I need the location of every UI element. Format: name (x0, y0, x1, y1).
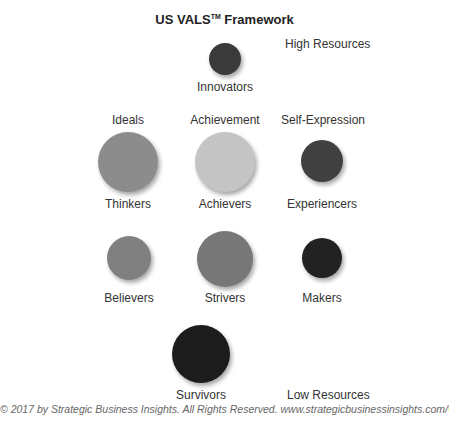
thinkers-label: Thinkers (105, 197, 151, 211)
experiencers-circle (301, 140, 343, 182)
strivers-circle (197, 231, 253, 287)
copyright-footer: © 2017 by Strategic Business Insights. A… (0, 403, 449, 415)
diagram-title: US VALSTM Framework (0, 12, 449, 27)
title-suffix: Framework (221, 12, 294, 27)
low-resources-label: Low Resources (287, 388, 370, 402)
survivors-circle (172, 325, 230, 383)
trademark-mark: TM (211, 13, 221, 20)
innovators-circle (209, 43, 241, 75)
experiencers-label: Experiencers (287, 197, 357, 211)
motivation-self-expression: Self-Expression (281, 113, 365, 127)
achievers-circle (195, 132, 255, 192)
title-text: US VALS (155, 12, 210, 27)
makers-label: Makers (302, 291, 341, 305)
believers-label: Believers (104, 291, 153, 305)
makers-circle (302, 238, 342, 278)
strivers-label: Strivers (205, 291, 246, 305)
innovators-label: Innovators (197, 80, 253, 94)
high-resources-label: High Resources (285, 37, 370, 51)
believers-circle (107, 236, 151, 280)
achievers-label: Achievers (199, 197, 252, 211)
thinkers-circle (98, 132, 158, 192)
survivors-label: Survivors (176, 388, 226, 402)
motivation-ideals: Ideals (112, 113, 144, 127)
motivation-achievement: Achievement (190, 113, 259, 127)
